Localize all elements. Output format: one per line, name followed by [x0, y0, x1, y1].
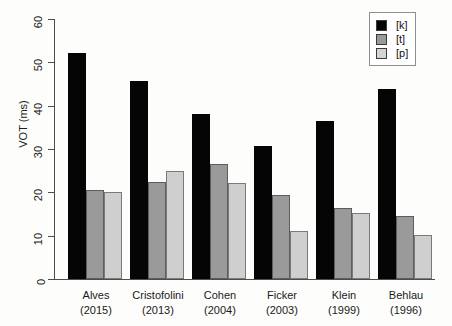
- y-axis-tick-value: 30: [31, 146, 45, 158]
- y-axis-tick-value: 0: [34, 279, 48, 285]
- y-axis-tick-label: 40: [0, 99, 44, 113]
- y-axis-tick-value: 20: [31, 189, 45, 201]
- x-axis-line: [54, 279, 435, 280]
- x-axis-label: Behlau(1996): [361, 288, 451, 318]
- x-axis-label-name: Behlau: [361, 288, 451, 303]
- y-axis-tick-label: 20: [0, 185, 44, 199]
- bar-group: [254, 19, 310, 279]
- y-axis-tick: [48, 236, 54, 237]
- bar-p: [228, 183, 246, 279]
- y-axis-tick: [48, 62, 54, 63]
- x-axis-label-year: (1996): [361, 303, 451, 318]
- bar-t: [334, 208, 352, 280]
- bar-t: [148, 182, 166, 280]
- y-axis-tick-label: 30: [0, 142, 44, 156]
- legend-item-t: [t]: [376, 32, 408, 46]
- bar-p: [352, 213, 370, 279]
- legend-item-k: [k]: [376, 18, 408, 32]
- y-axis-tick-value: 50: [31, 59, 45, 71]
- y-axis-tick-value: 10: [31, 233, 45, 245]
- bar-k: [254, 146, 272, 279]
- y-axis-tick: [48, 149, 54, 150]
- chart-legend: [k][t][p]: [369, 12, 416, 66]
- legend-label-t: [t]: [396, 33, 405, 45]
- legend-swatch-k: [376, 20, 387, 31]
- bar-k: [130, 81, 148, 279]
- y-axis-tick-label: 60: [0, 12, 44, 26]
- y-axis-tick: [48, 19, 54, 20]
- bar-k: [316, 121, 334, 279]
- y-axis-tick-label: 50: [0, 55, 44, 69]
- legend-label-k: [k]: [396, 19, 408, 31]
- legend-item-p: [p]: [376, 46, 408, 60]
- bar-p: [104, 192, 122, 279]
- bar-group: [316, 19, 372, 279]
- bar-p: [166, 171, 184, 279]
- y-axis-tick-label: 0: [0, 272, 44, 286]
- y-axis-tick-label: 10: [0, 229, 44, 243]
- bar-group: [192, 19, 248, 279]
- bar-t: [210, 164, 228, 279]
- y-axis-tick: [48, 106, 54, 107]
- y-axis-tick: [48, 279, 54, 280]
- bar-group: [130, 19, 186, 279]
- bar-t: [86, 190, 104, 279]
- bar-t: [396, 216, 414, 279]
- bar-p: [414, 235, 432, 279]
- legend-label-p: [p]: [396, 47, 408, 59]
- bar-p: [290, 231, 308, 279]
- y-axis-tick-value: 60: [31, 16, 45, 28]
- legend-swatch-p: [376, 48, 387, 59]
- bar-group: [68, 19, 124, 279]
- y-axis-tick-value: 40: [31, 103, 45, 115]
- bar-k: [378, 89, 396, 279]
- y-axis-tick: [48, 192, 54, 193]
- bar-k: [192, 114, 210, 279]
- y-axis-title: VOT (ms): [0, 118, 17, 130]
- bar-t: [272, 195, 290, 279]
- vot-bar-chart: VOT (ms) 0102030405060 Alves(2015)Cristo…: [0, 0, 452, 326]
- bar-k: [68, 53, 86, 279]
- legend-swatch-t: [376, 34, 387, 45]
